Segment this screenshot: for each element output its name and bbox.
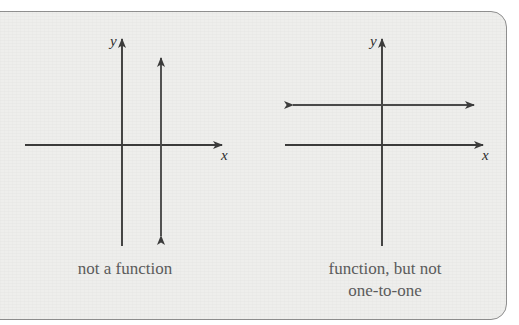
- left-plot-y-axis-label: y: [110, 33, 117, 50]
- left-plot-caption: not a function: [30, 258, 220, 280]
- figure-container: y x y x not a function function, but not…: [0, 0, 519, 325]
- right-plot-caption-line-2: one-to-one: [285, 280, 485, 302]
- right-plot-caption-line-1: function, but not: [285, 258, 485, 280]
- right-plot-caption: function, but not one-to-one: [285, 258, 485, 302]
- right-plot-x-axis-label: x: [482, 147, 489, 164]
- right-plot-y-axis-label: y: [370, 33, 377, 50]
- left-plot-caption-line-1: not a function: [30, 258, 220, 280]
- left-plot: [25, 39, 222, 246]
- left-plot-x-axis-label: x: [221, 147, 228, 164]
- right-plot: [285, 39, 483, 246]
